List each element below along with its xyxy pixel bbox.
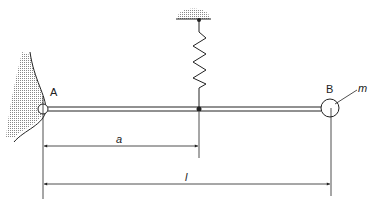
label-m: m bbox=[358, 82, 367, 94]
mass-leader bbox=[335, 90, 357, 104]
wall-support bbox=[6, 52, 46, 142]
mass-b bbox=[321, 99, 339, 117]
spring bbox=[193, 20, 206, 108]
label-a: A bbox=[50, 86, 58, 98]
beam bbox=[48, 107, 321, 111]
label-dim-l: l bbox=[185, 171, 188, 183]
label-b: B bbox=[326, 83, 333, 95]
label-dim-a: a bbox=[116, 133, 122, 145]
spring-attach-point bbox=[197, 107, 202, 112]
ceiling-support bbox=[176, 9, 211, 23]
beam-spring-diagram: A B m a l bbox=[0, 0, 375, 202]
